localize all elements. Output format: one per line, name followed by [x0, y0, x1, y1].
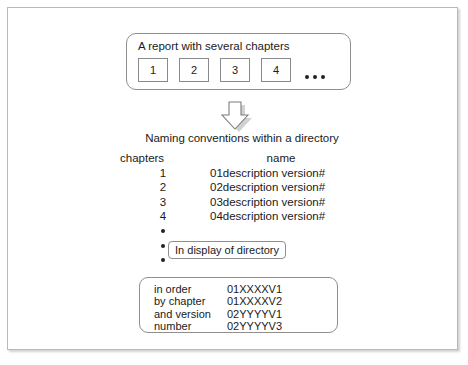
chapter-box-4: 4 — [261, 58, 291, 82]
chapter-box-2: 2 — [179, 58, 209, 82]
example-row: in order 01XXXXV1 — [154, 283, 327, 295]
example-value: 02YYYYV1 — [227, 308, 327, 320]
arrow-down-block-icon — [211, 96, 259, 132]
ellipsis-dot — [305, 75, 309, 79]
example-label: by chapter — [154, 295, 227, 307]
table-header-row: chapters name — [114, 151, 400, 166]
table-continuation-row — [114, 224, 400, 239]
cell-name: 04description version# — [210, 209, 400, 224]
naming-conventions-heading: Naming conventions within a directory — [8, 132, 468, 144]
example-callout-box: in order 01XXXXV1 by chapter 01XXXXV2 an… — [139, 277, 338, 333]
cell-chapter: 2 — [114, 180, 210, 195]
cell-chapter: 1 — [114, 166, 210, 181]
cell-name: 03description version# — [210, 195, 400, 210]
cell-chapter: 4 — [114, 209, 210, 224]
column-header-name: name — [210, 151, 400, 166]
example-label: in order — [154, 283, 227, 295]
report-callout-box: A report with several chapters 1 2 3 4 — [126, 33, 351, 90]
example-label: and version — [154, 308, 227, 320]
example-value: 01XXXXV2 — [227, 295, 327, 307]
table-row: 3 03description version# — [114, 195, 400, 210]
chapter-box-row: 1 2 3 4 — [138, 58, 325, 82]
column-header-chapters: chapters — [114, 151, 210, 166]
display-of-directory-box: In display of directory — [168, 241, 286, 259]
example-value: 01XXXXV1 — [227, 283, 327, 295]
table-row: 1 01description version# — [114, 166, 400, 181]
example-row: and version 02YYYYV1 — [154, 308, 327, 320]
table-row: 4 04description version# — [114, 209, 400, 224]
report-title: A report with several chapters — [138, 39, 290, 53]
table-row: 2 02description version# — [114, 180, 400, 195]
diagram-frame: A report with several chapters 1 2 3 4 N… — [7, 7, 458, 350]
chapter-box-1: 1 — [138, 58, 168, 82]
display-of-directory-label: In display of directory — [169, 242, 285, 258]
example-rows: in order 01XXXXV1 by chapter 01XXXXV2 an… — [154, 283, 327, 332]
chapter-box-3: 3 — [220, 58, 250, 82]
example-label: number — [154, 320, 227, 332]
example-value: 02YYYYV3 — [227, 320, 327, 332]
continuation-bullet — [114, 224, 210, 239]
example-row: by chapter 01XXXXV2 — [154, 295, 327, 307]
cell-chapter: 3 — [114, 195, 210, 210]
cell-name: 01description version# — [210, 166, 400, 181]
ellipsis-dot — [321, 75, 325, 79]
ellipsis-dot — [313, 75, 317, 79]
chapter-ellipsis-icon — [305, 75, 325, 82]
cell-name: 02description version# — [210, 180, 400, 195]
example-row: number 02YYYYV3 — [154, 320, 327, 332]
